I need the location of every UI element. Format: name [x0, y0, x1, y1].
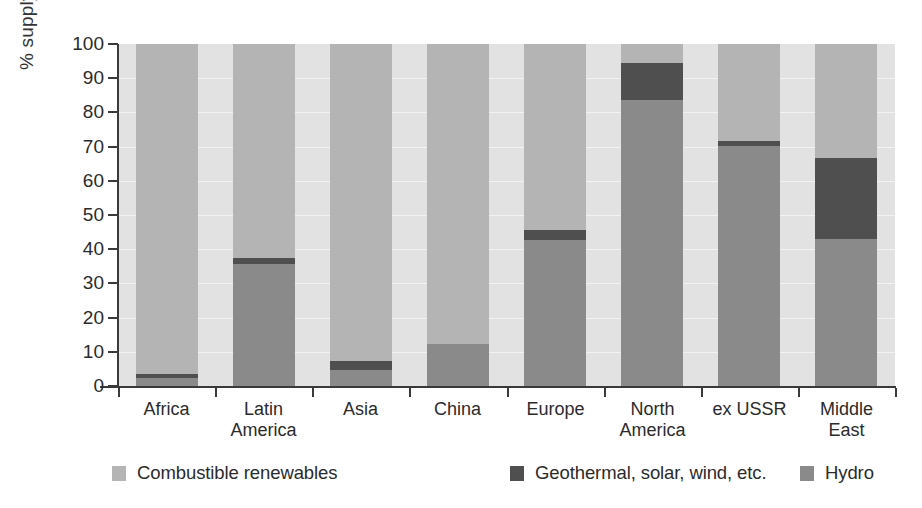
- bar-segment: [233, 258, 295, 264]
- bar-stack: [330, 44, 392, 386]
- x-tick-mark: [507, 388, 509, 397]
- bar-segment: [136, 378, 198, 386]
- legend-swatch-icon: [800, 466, 814, 481]
- x-axis-category-label: Latin America: [215, 399, 312, 441]
- bar-segment: [815, 158, 877, 239]
- y-tick-mark: [108, 351, 118, 353]
- y-tick-label: 20: [62, 308, 104, 327]
- bar-stack: [233, 44, 295, 386]
- x-tick-mark: [118, 388, 120, 397]
- bar-segment: [330, 44, 392, 361]
- y-tick-label: 100: [62, 34, 104, 53]
- bar-segment: [524, 44, 586, 230]
- y-tick-label: 80: [62, 102, 104, 121]
- bar-segment: [330, 370, 392, 386]
- chart-screenshot: % supply 0102030405060708090100 AfricaLa…: [0, 0, 922, 508]
- y-tick-mark: [108, 43, 118, 45]
- legend-item[interactable]: Geothermal, solar, wind, etc.: [510, 460, 767, 486]
- x-tick-mark: [895, 388, 897, 397]
- x-axis-category-label: Africa: [118, 399, 215, 420]
- legend-swatch-icon: [510, 466, 524, 481]
- bar-segment: [621, 63, 683, 100]
- bar-segment: [524, 230, 586, 240]
- y-tick-mark: [108, 77, 118, 79]
- bar-segment: [233, 264, 295, 386]
- legend-swatch-icon: [112, 466, 126, 481]
- y-tick-mark: [108, 214, 118, 216]
- bar-segment: [136, 44, 198, 374]
- bar-stack: [524, 44, 586, 386]
- y-tick-label: 90: [62, 68, 104, 87]
- bar-stack: [815, 44, 877, 386]
- y-tick-label: 0: [62, 376, 104, 395]
- x-tick-mark: [604, 388, 606, 397]
- y-tick-mark: [108, 317, 118, 319]
- bar-segment: [718, 146, 780, 386]
- y-tick-label: 50: [62, 205, 104, 224]
- bar-segment: [330, 361, 392, 370]
- bar-segment: [815, 239, 877, 386]
- y-tick-mark: [108, 385, 118, 387]
- x-axis-category-label: ex USSR: [701, 399, 798, 420]
- bar-segment: [524, 240, 586, 386]
- y-tick-label: 60: [62, 171, 104, 190]
- y-axis-title: % supply: [16, 0, 42, 70]
- x-tick-mark: [312, 388, 314, 397]
- x-tick-mark: [409, 388, 411, 397]
- y-tick-mark: [108, 180, 118, 182]
- y-tick-label: 30: [62, 273, 104, 292]
- x-axis-category-label: Europe: [507, 399, 604, 420]
- bar-stack: [136, 44, 198, 386]
- chart-legend: Combustible renewablesGeothermal, solar,…: [112, 460, 912, 490]
- y-tick-mark: [108, 111, 118, 113]
- y-tick-label: 70: [62, 137, 104, 156]
- bar-segment: [427, 44, 489, 344]
- bar-stack: [621, 44, 683, 386]
- x-axis-category-label: China: [409, 399, 506, 420]
- legend-label: Geothermal, solar, wind, etc.: [535, 462, 767, 484]
- x-tick-mark: [215, 388, 217, 397]
- x-axis-category-label: Asia: [312, 399, 409, 420]
- bar-segment: [815, 44, 877, 158]
- y-tick-mark: [108, 146, 118, 148]
- legend-item[interactable]: Hydro: [800, 460, 874, 486]
- y-tick-label: 40: [62, 239, 104, 258]
- bar-segment: [427, 344, 489, 386]
- bar-segment: [621, 100, 683, 386]
- bar-stack: [718, 44, 780, 386]
- y-tick-mark: [108, 248, 118, 250]
- bar-segment: [718, 141, 780, 146]
- y-tick-mark: [108, 282, 118, 284]
- bar-segment: [718, 44, 780, 141]
- x-tick-mark: [798, 388, 800, 397]
- legend-item[interactable]: Combustible renewables: [112, 460, 337, 486]
- x-axis-line: [100, 386, 896, 388]
- bar-segment: [621, 44, 683, 63]
- y-tick-label: 10: [62, 342, 104, 361]
- legend-label: Hydro: [825, 462, 874, 484]
- legend-label: Combustible renewables: [137, 462, 337, 484]
- bar-stack: [427, 44, 489, 386]
- x-axis-category-label: North America: [604, 399, 701, 441]
- x-axis-category-label: Middle East: [798, 399, 895, 441]
- bar-segment: [136, 374, 198, 378]
- x-tick-mark: [701, 388, 703, 397]
- bar-segment: [233, 44, 295, 258]
